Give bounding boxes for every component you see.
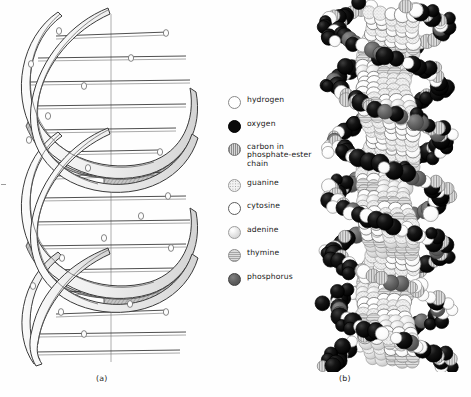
legend-item-label: phosphorus xyxy=(247,272,293,281)
atom-oxygen xyxy=(376,47,394,65)
carbon-swatch-icon xyxy=(228,143,241,156)
atom-oxygen xyxy=(325,358,341,372)
atom-hydrogen xyxy=(378,162,390,174)
atom-hydrogen xyxy=(390,332,401,343)
thymine-swatch-icon xyxy=(228,249,241,262)
atom-hydrogen xyxy=(329,35,340,46)
legend-item-label: adenine xyxy=(247,225,279,234)
helix-ribbon-strand-2 xyxy=(30,8,198,366)
atom-carbon xyxy=(338,230,350,242)
atom-oxygen xyxy=(315,296,330,311)
legend-item-label: oxygen xyxy=(247,119,276,128)
atom-oxygen xyxy=(377,214,394,231)
legend-item-label: guanine xyxy=(247,178,279,187)
panel-a-ribbon-helix xyxy=(0,0,222,372)
atom-oxygen xyxy=(426,227,438,239)
space-filling-atom-group xyxy=(315,0,458,372)
atom-carbon xyxy=(399,0,413,13)
atom-hydrogen xyxy=(322,146,334,158)
atom-hydrogen xyxy=(423,206,439,222)
atom-oxygen xyxy=(407,226,423,242)
legend-item-label: cytosine xyxy=(247,201,280,210)
legend-item-label: hydrogen xyxy=(247,95,284,104)
cytosine-swatch-icon xyxy=(228,202,241,215)
atom-oxygen xyxy=(322,80,333,91)
dna-structure-figure: hydrogen oxygen carbon in phosphate-este… xyxy=(0,0,471,397)
atom-oxygen xyxy=(342,267,355,280)
hydrogen-swatch-icon xyxy=(228,96,241,109)
adenine-swatch-icon xyxy=(228,226,241,239)
atom-oxygen xyxy=(330,284,344,298)
panel-caption-b: (b) xyxy=(339,374,351,383)
panel-caption-a: (a) xyxy=(96,374,107,383)
oxygen-swatch-icon xyxy=(228,120,241,133)
guanine-swatch-icon xyxy=(228,179,241,192)
atom-carbon xyxy=(430,175,443,188)
legend-item-label: carbon in phosphate-ester chain xyxy=(247,142,312,168)
scan-edge-artifact xyxy=(1,184,6,185)
atom-oxygen xyxy=(337,58,353,74)
legend-item-label: thymine xyxy=(247,248,279,257)
panel-b-space-filling-model xyxy=(306,0,471,372)
atom-oxygen xyxy=(424,318,436,330)
phosphorus-swatch-icon xyxy=(228,273,241,286)
atom-phosphorus xyxy=(377,104,392,119)
atom-carbon xyxy=(375,271,388,284)
atom-hydrogen xyxy=(375,327,389,341)
